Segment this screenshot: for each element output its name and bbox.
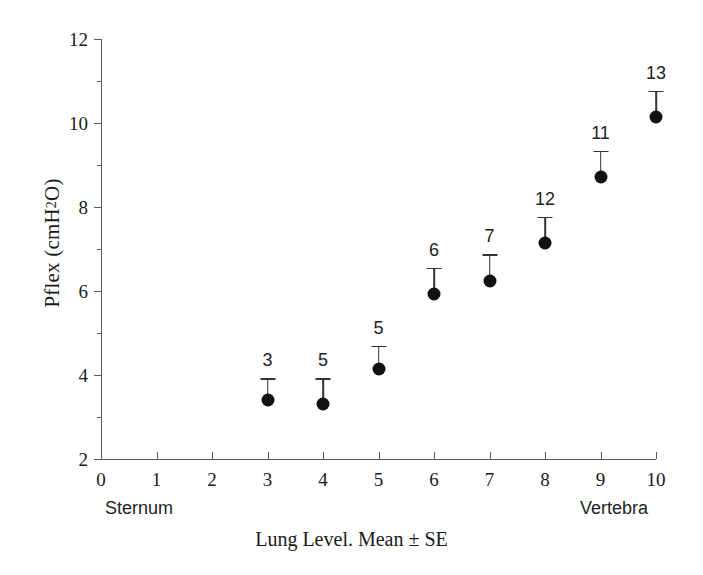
error-bar-cap (649, 91, 664, 93)
x-tick-1 (157, 452, 158, 459)
error-bar-cap (538, 217, 553, 219)
data-point-n-label: 6 (429, 240, 439, 261)
data-point-n-label: 5 (318, 350, 328, 371)
error-bar-cap (371, 346, 386, 348)
y-tick-8: 8 (94, 207, 101, 208)
error-bar-cap (316, 378, 331, 380)
y-tick-10: 10 (94, 123, 101, 124)
y-axis-line (101, 39, 102, 459)
x-tick-label-8: 8 (540, 469, 550, 491)
data-point-n-label: 3 (262, 350, 272, 371)
x-tick-6 (434, 452, 435, 459)
data-point (650, 110, 663, 123)
x-tick-label-5: 5 (374, 469, 384, 491)
x-tick-label-9: 9 (596, 469, 606, 491)
error-bar-cap (593, 151, 608, 153)
y-tick-label-4: 4 (79, 365, 89, 387)
y-minor-tick-5 (97, 333, 101, 334)
x-axis-line (101, 459, 656, 460)
x-tick-label-10: 10 (647, 469, 666, 491)
data-point-n-label: 5 (373, 318, 383, 339)
y-tick-label-10: 10 (69, 113, 88, 135)
y-tick-4: 4 (94, 375, 101, 376)
data-point (261, 394, 274, 407)
x-tick-label-1: 1 (152, 469, 162, 491)
y-axis-label-tail: O) (40, 178, 65, 201)
x-tick-5 (379, 452, 380, 459)
y-minor-tick-11 (97, 81, 101, 82)
x-tick-8 (545, 452, 546, 459)
data-point-n-label: 13 (646, 63, 666, 84)
data-point (483, 274, 496, 287)
y-minor-tick-7 (97, 249, 101, 250)
data-point-n-label: 7 (484, 226, 494, 247)
y-axis-label-subscript: 2 (44, 201, 60, 208)
y-tick-label-2: 2 (79, 449, 89, 471)
x-tick-4 (323, 452, 324, 459)
error-bar-cap (482, 254, 497, 256)
sternum-annotation: Sternum (105, 498, 173, 519)
chart-figure: Pflex (cmH2O) 24681012 012345678910 3556… (0, 0, 703, 575)
x-tick-0 (101, 452, 102, 459)
x-tick-10 (656, 452, 657, 459)
y-minor-tick-9 (97, 165, 101, 166)
y-tick-12: 12 (94, 39, 101, 40)
y-tick-label-8: 8 (79, 197, 89, 219)
error-bar-cap (427, 268, 442, 270)
y-tick-6: 6 (94, 291, 101, 292)
x-tick-label-4: 4 (318, 469, 328, 491)
x-tick-label-6: 6 (429, 469, 439, 491)
x-tick-label-2: 2 (207, 469, 217, 491)
y-minor-tick-3 (97, 417, 101, 418)
y-tick-label-12: 12 (69, 29, 88, 51)
x-tick-label-7: 7 (485, 469, 495, 491)
plot-area: 24681012 012345678910 35567121113 (101, 39, 656, 459)
y-axis-label-main: Pflex (cmH (40, 208, 65, 307)
x-axis-label: Lung Level. Mean ± SE (0, 528, 703, 551)
x-tick-label-3: 3 (263, 469, 273, 491)
data-point-n-label: 12 (535, 189, 555, 210)
x-tick-2 (212, 452, 213, 459)
x-tick-9 (601, 452, 602, 459)
vertebra-annotation: Vertebra (580, 498, 648, 519)
x-tick-label-0: 0 (96, 469, 106, 491)
x-tick-7 (490, 452, 491, 459)
x-tick-3 (268, 452, 269, 459)
data-point (594, 170, 607, 183)
data-point (372, 362, 385, 375)
data-point (539, 236, 552, 249)
data-point (317, 398, 330, 411)
data-point-n-label: 11 (591, 123, 610, 144)
y-tick-2: 2 (94, 459, 101, 460)
data-point (428, 287, 441, 300)
y-axis-label: Pflex (cmH2O) (31, 33, 73, 453)
y-tick-label-6: 6 (79, 281, 89, 303)
error-bar-cap (260, 378, 275, 380)
